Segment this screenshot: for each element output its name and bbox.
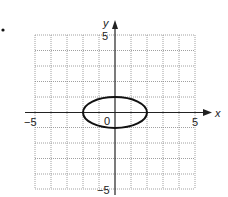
axes — [25, 28, 205, 195]
y-axis-label: y — [102, 17, 110, 29]
bullet-dot-icon — [1, 28, 4, 31]
y-axis-arrow-icon — [112, 20, 118, 29]
origin-label: 0 — [104, 115, 110, 127]
x-axis-arrow-icon — [203, 109, 212, 116]
x-min-label: −5 — [24, 116, 37, 128]
y-max-label: 5 — [102, 30, 108, 42]
x-axis-label: x — [214, 107, 221, 119]
x-max-label: 5 — [192, 116, 198, 128]
coordinate-graph: x y 5 −5 −5 5 0 — [0, 0, 228, 197]
y-min-label: −5 — [97, 184, 110, 196]
